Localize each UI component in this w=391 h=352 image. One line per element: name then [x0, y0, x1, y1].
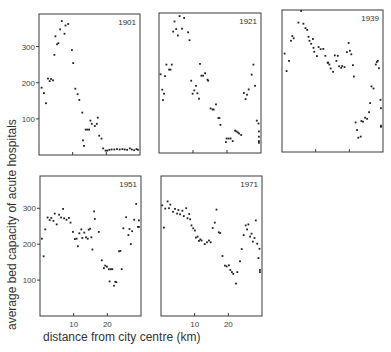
data-point	[353, 76, 355, 78]
data-point	[340, 67, 342, 69]
data-point	[195, 237, 197, 239]
data-point	[124, 149, 126, 151]
data-point	[129, 228, 131, 230]
data-point	[312, 38, 314, 40]
data-point	[322, 48, 324, 50]
data-point	[318, 46, 320, 48]
data-point	[198, 98, 200, 100]
data-point	[179, 15, 181, 17]
data-point	[210, 241, 212, 243]
data-point	[375, 64, 377, 66]
data-point	[128, 234, 130, 236]
data-point	[377, 60, 379, 62]
data-point	[72, 62, 74, 64]
panel-year-label: 1971	[240, 180, 258, 189]
data-point	[195, 85, 197, 87]
data-point	[137, 149, 139, 151]
data-point	[327, 62, 329, 64]
x-tick-label: 10	[69, 320, 78, 329]
data-point	[213, 109, 215, 111]
data-point	[77, 245, 79, 247]
data-point	[224, 265, 226, 267]
data-point	[133, 219, 135, 221]
data-point	[125, 216, 127, 218]
data-point	[89, 228, 91, 230]
data-point	[332, 71, 334, 73]
data-point	[65, 25, 67, 27]
data-point	[113, 285, 115, 287]
data-point	[344, 66, 346, 68]
data-point	[194, 230, 196, 232]
data-point	[43, 255, 45, 257]
data-point	[98, 231, 100, 233]
data-point	[341, 65, 343, 67]
data-point	[183, 215, 185, 217]
small-multiples-scatter-figure: 1002003001901192119391020100200300195110…	[0, 0, 391, 352]
data-point	[259, 269, 261, 271]
data-point	[378, 67, 380, 69]
data-point	[41, 238, 43, 240]
data-point	[258, 131, 260, 133]
data-point	[174, 208, 176, 210]
data-point	[81, 112, 83, 114]
data-point	[53, 220, 55, 222]
data-point	[174, 21, 176, 23]
panel-year-label: 1901	[118, 18, 136, 27]
data-point	[56, 224, 58, 226]
data-point	[229, 269, 231, 271]
panel-frame	[39, 14, 140, 155]
data-point	[49, 219, 51, 221]
data-point	[258, 142, 260, 144]
data-point	[201, 75, 203, 77]
panels-group: 1002003001901192119391020100200300195110…	[22, 10, 383, 329]
data-point	[356, 129, 358, 131]
data-point	[258, 257, 260, 259]
data-point	[204, 72, 206, 74]
data-point	[96, 123, 98, 125]
data-point	[288, 60, 290, 62]
data-point	[336, 60, 338, 62]
data-point	[123, 227, 125, 229]
data-point	[357, 137, 359, 139]
data-point	[131, 149, 133, 151]
data-point	[126, 149, 128, 151]
data-point	[253, 64, 255, 66]
data-point	[133, 149, 135, 151]
data-point	[190, 80, 192, 82]
data-point	[88, 129, 90, 131]
data-point	[161, 89, 163, 91]
data-point	[131, 230, 133, 232]
data-point	[199, 63, 201, 65]
data-point	[286, 70, 288, 72]
data-point	[219, 117, 221, 119]
y-tick-label: 100	[22, 115, 36, 124]
data-point	[106, 150, 108, 152]
data-point	[60, 217, 62, 219]
data-point	[177, 35, 179, 37]
data-point	[80, 229, 82, 231]
data-point	[249, 236, 251, 238]
data-point	[259, 248, 261, 250]
data-point	[164, 208, 166, 210]
data-point	[193, 90, 195, 92]
data-point	[82, 140, 84, 142]
data-point	[121, 268, 123, 270]
data-point	[55, 35, 57, 37]
data-point	[162, 99, 164, 101]
data-point	[81, 237, 83, 239]
data-point	[109, 281, 111, 283]
data-point	[241, 248, 243, 250]
scatter-panel-1921: 1921	[159, 13, 261, 153]
panel-year-label: 1939	[361, 14, 379, 23]
data-point	[191, 225, 193, 227]
data-point	[219, 232, 221, 234]
data-point	[222, 255, 224, 257]
data-point	[50, 78, 52, 80]
data-point	[122, 148, 124, 150]
data-point	[108, 149, 110, 151]
data-point	[58, 42, 60, 44]
data-point	[111, 149, 113, 151]
y-tick-label: 300	[22, 43, 36, 52]
data-point	[245, 225, 247, 227]
data-point	[256, 120, 258, 122]
